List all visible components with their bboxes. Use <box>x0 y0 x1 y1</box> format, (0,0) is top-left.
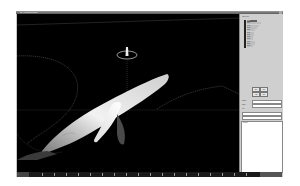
panel-button-del[interactable]: Del <box>260 92 268 97</box>
panel-button-add[interactable]: Add <box>252 92 260 97</box>
timeline-tick <box>54 173 55 176</box>
viewport-scene <box>17 14 239 172</box>
timeline-tick <box>78 173 79 176</box>
field-label-name: Name <box>242 100 246 102</box>
timeline-tick <box>186 173 187 176</box>
whale-ventral <box>117 114 125 145</box>
whale-body <box>42 74 169 154</box>
output-log[interactable]: Output <box>241 121 283 173</box>
grid-line <box>17 18 239 25</box>
current-frame: 0 <box>18 173 19 176</box>
field-label-key: Key <box>242 108 245 110</box>
timeline-tick <box>174 173 175 176</box>
motion-path-right <box>157 86 239 109</box>
field-label-path: Path <box>242 104 245 106</box>
whale-tail <box>17 151 57 160</box>
properties-panel: Objects item item item item item item it… <box>239 14 283 172</box>
timeline-tick <box>198 173 199 176</box>
timeline-tick <box>234 173 235 176</box>
gizmo-arrow <box>126 47 129 56</box>
timeline-tick <box>114 173 115 176</box>
log-line: Output <box>242 122 282 124</box>
panel-header: Objects <box>242 15 280 18</box>
end-frame-field[interactable] <box>260 172 282 177</box>
list-scrollbar[interactable] <box>244 20 246 48</box>
timeline-ruler[interactable]: 0 <box>17 172 282 177</box>
timeline-tick <box>222 173 223 176</box>
object-list[interactable]: item item item item item item item item … <box>244 20 280 48</box>
extra-field[interactable] <box>242 116 282 120</box>
app-window: 3D Animation Editor <box>16 11 283 177</box>
timeline-tick <box>210 173 211 176</box>
list-item[interactable]: item <box>247 45 253 47</box>
timeline-tick <box>126 173 127 176</box>
current-frame-box[interactable]: 0 <box>17 172 29 177</box>
3d-viewport[interactable] <box>17 14 239 172</box>
timeline-tick <box>246 173 247 176</box>
timeline-tick <box>102 173 103 176</box>
timeline-tick <box>162 173 163 176</box>
timeline-tick <box>90 173 91 176</box>
timeline-tick <box>138 173 139 176</box>
timeline-tick <box>150 173 151 176</box>
timeline-tick <box>42 173 43 176</box>
path-field[interactable] <box>252 104 282 108</box>
timeline-tick <box>66 173 67 176</box>
